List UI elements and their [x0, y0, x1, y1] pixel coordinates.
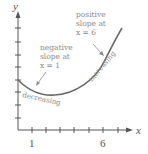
negative-label-line2: slope at	[40, 52, 70, 61]
y-axis-label: y	[12, 0, 18, 12]
positive-label-line3: x = 6	[76, 28, 96, 37]
negative-label-line3: x = 1	[40, 61, 60, 70]
y-axis-arrow-icon	[16, 11, 21, 18]
negative-label-line1: negative	[40, 43, 73, 52]
positive-slope-arrow	[93, 44, 101, 53]
slope-diagram: y x 1 6 negative slope at x = 1 positive…	[0, 0, 148, 154]
x-axis-arrow-icon	[126, 128, 133, 133]
x-tick-label-6: 6	[100, 137, 106, 149]
x-tick-label-1: 1	[29, 137, 35, 149]
negative-slope-arrow	[38, 72, 46, 83]
x-axis-label: x	[135, 124, 141, 136]
positive-label-line1: positive	[76, 10, 106, 19]
positive-label-line2: slope at	[76, 19, 106, 28]
